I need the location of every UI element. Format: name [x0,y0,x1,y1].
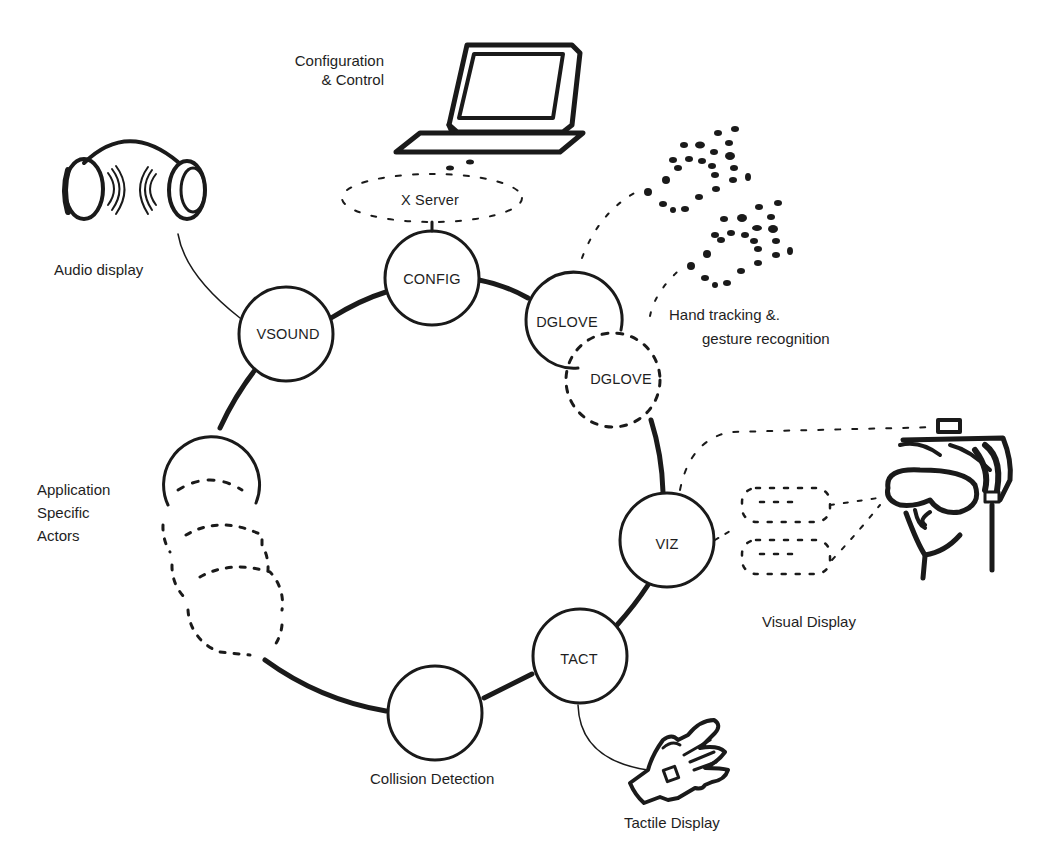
app-caption-line2: Specific [37,501,110,524]
tactile-glove-icon [630,720,728,803]
hmd-user-icon [888,420,1011,578]
application-actors-stack[interactable] [163,437,283,655]
visual-display-caption: Visual Display [762,612,856,631]
hand-caption-line2: gesture recognition [669,329,830,348]
vsound-label: VSOUND [256,326,319,342]
actor-ring-diagram [0,0,1045,852]
frame-buffers-icon [742,488,830,574]
headphones-to-vsound-link [178,234,240,318]
buffers-to-hmd-link [830,497,885,560]
x-server-label: X Server [401,192,459,208]
viz-label: VIZ [655,536,678,552]
tactile-display-caption: Tactile Display [624,813,720,832]
viz-to-hmd-upper-link [680,427,940,490]
dglove-primary-label: DGLOVE [536,314,598,330]
app-caption-line3: Actors [37,524,110,547]
tact-to-glove-link [578,705,648,770]
config-label: CONFIG [403,271,461,287]
app-caption-line1: Application [37,478,110,501]
data-glove-icon-upper [644,126,751,213]
dglove-to-glove-upper-link [582,190,640,258]
config-caption-line1: Configuration [280,51,384,70]
data-glove-icon-lower [687,200,793,288]
headphones-icon [65,141,205,219]
collision-detection-caption: Collision Detection [370,769,494,788]
config-caption-line2: & Control [280,70,384,89]
workstation-icon [396,45,583,171]
config-caption: Configuration & Control [280,51,384,89]
tact-label: TACT [560,651,598,667]
dglove-secondary-label: DGLOVE [590,371,652,387]
audio-display-caption: Audio display [54,260,143,279]
hand-caption-line1: Hand tracking &. [669,305,830,324]
application-actors-caption: Application Specific Actors [37,478,110,547]
collision-detection-node[interactable] [388,666,482,760]
hand-tracking-caption: Hand tracking &. gesture recognition [669,305,830,348]
viz-to-buffers-link [715,528,735,540]
